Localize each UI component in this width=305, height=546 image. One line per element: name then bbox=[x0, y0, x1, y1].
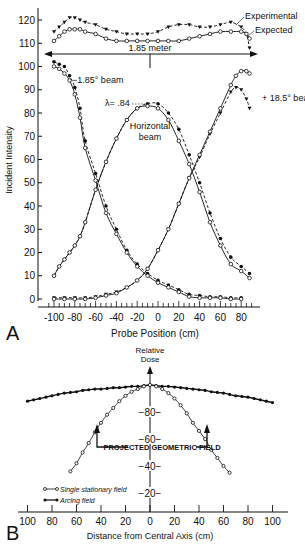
svg-text:Probe Position (cm): Probe Position (cm) bbox=[111, 328, 199, 339]
svg-text:80: 80 bbox=[236, 312, 248, 323]
svg-text:80: 80 bbox=[242, 516, 254, 527]
svg-text:10: 10 bbox=[24, 270, 36, 281]
svg-text:120: 120 bbox=[18, 15, 35, 26]
panel-b-label: B bbox=[6, 522, 19, 544]
svg-text:60: 60 bbox=[24, 154, 36, 165]
svg-text:80: 80 bbox=[46, 516, 58, 527]
svg-text:Distance from Central Axis (cm: Distance from Central Axis (cm) bbox=[87, 531, 214, 541]
svg-text:0: 0 bbox=[29, 294, 35, 305]
svg-text:Incident Intensity: Incident Intensity bbox=[4, 126, 14, 194]
svg-text:20: 20 bbox=[169, 516, 181, 527]
panel-a-chart: 0102030405060708090100110120-100-80-60-4… bbox=[4, 8, 305, 339]
svg-text:50: 50 bbox=[24, 177, 36, 188]
svg-text:Expected: Expected bbox=[255, 25, 293, 35]
svg-text:110: 110 bbox=[19, 38, 35, 49]
svg-text:70: 70 bbox=[24, 131, 36, 142]
svg-text:80: 80 bbox=[24, 108, 36, 119]
svg-text:100: 100 bbox=[19, 516, 36, 527]
svg-text:-100: -100 bbox=[44, 312, 64, 323]
panel-b-chart: RelativeDose10080604020020406080100Dista… bbox=[18, 346, 288, 541]
svg-text:Experimental: Experimental bbox=[245, 11, 298, 21]
svg-text:20: 20 bbox=[24, 247, 36, 258]
svg-text:-20: -20 bbox=[130, 312, 145, 323]
svg-text:-80: -80 bbox=[68, 312, 83, 323]
svg-text:40: 40 bbox=[194, 312, 206, 323]
svg-text:Single stationary field: Single stationary field bbox=[60, 486, 128, 494]
svg-text:-60: -60 bbox=[88, 312, 103, 323]
svg-text:beam: beam bbox=[139, 132, 162, 142]
svg-text:90: 90 bbox=[24, 84, 36, 95]
svg-text:Relative: Relative bbox=[136, 346, 165, 355]
svg-text:Arcing field: Arcing field bbox=[59, 497, 96, 505]
svg-text:40: 40 bbox=[193, 516, 205, 527]
svg-text:PROJECTED GEOMETRIC FIELD: PROJECTED GEOMETRIC FIELD bbox=[103, 443, 221, 452]
svg-text:20: 20 bbox=[120, 516, 132, 527]
svg-text:40: 40 bbox=[95, 516, 107, 527]
svg-text:-40: -40 bbox=[109, 312, 124, 323]
svg-text:30: 30 bbox=[24, 224, 36, 235]
svg-text:100: 100 bbox=[18, 61, 35, 72]
svg-text:−1.85° beam: −1.85° beam bbox=[72, 75, 123, 85]
svg-text:+ 18.5° beam: + 18.5° beam bbox=[262, 93, 305, 103]
svg-text:60: 60 bbox=[218, 516, 230, 527]
svg-text:1.85 meter: 1.85 meter bbox=[128, 43, 171, 53]
svg-text:40: 40 bbox=[24, 201, 36, 212]
svg-text:60: 60 bbox=[215, 312, 227, 323]
svg-text:20: 20 bbox=[173, 312, 185, 323]
svg-text:100: 100 bbox=[264, 516, 281, 527]
svg-text:60: 60 bbox=[71, 516, 83, 527]
svg-text:−20−: −20− bbox=[139, 488, 162, 499]
svg-text:−80−: −80− bbox=[139, 407, 162, 418]
svg-text:−40−: −40− bbox=[139, 461, 162, 472]
svg-text:Horizontal: Horizontal bbox=[130, 121, 171, 131]
svg-text:0: 0 bbox=[155, 312, 161, 323]
svg-text:λ= .84: λ= .84 bbox=[105, 98, 130, 108]
figure: 0102030405060708090100110120-100-80-60-4… bbox=[0, 0, 305, 546]
svg-text:0: 0 bbox=[147, 516, 153, 527]
svg-text:Dose: Dose bbox=[141, 355, 160, 364]
panel-a-label: A bbox=[6, 322, 20, 344]
